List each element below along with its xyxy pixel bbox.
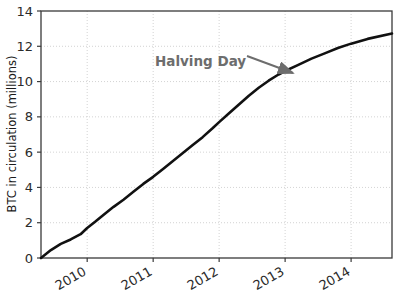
halving-day-label: Halving Day (155, 53, 246, 69)
y-tick-label: 14 (16, 4, 33, 19)
y-tick-label: 2 (25, 215, 33, 230)
y-axis-title: BTC in circulation (millions) (5, 56, 19, 213)
y-tick-label: 6 (25, 145, 33, 160)
y-tick-label: 0 (25, 251, 33, 266)
btc-circulation-line-chart: 02468101214 20102011201220132014 BTC in … (0, 0, 404, 295)
y-tick-label: 12 (16, 39, 33, 54)
y-tick-label: 4 (25, 180, 33, 195)
chart-figure: 02468101214 20102011201220132014 BTC in … (0, 0, 404, 295)
y-tick-label: 8 (25, 109, 33, 124)
